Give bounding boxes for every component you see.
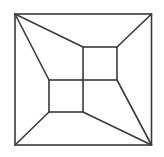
connector-top-left-to-lower-square xyxy=(15,14,49,80)
inner-square-lower-left xyxy=(49,80,83,112)
connector-bottom-right-to-upper-square xyxy=(117,80,152,145)
connector-top-left-to-upper-square xyxy=(15,14,83,47)
connector-bottom-right-to-lower-square xyxy=(83,112,152,145)
square-diagram xyxy=(0,0,164,157)
inner-square-upper-right xyxy=(83,47,117,80)
connector-top-right-to-upper-square xyxy=(117,14,152,47)
connector-bottom-left-to-lower-square xyxy=(15,112,49,145)
